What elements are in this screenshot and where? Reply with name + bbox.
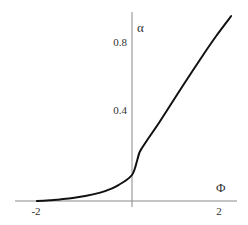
data-curve	[37, 16, 231, 201]
y-tick-label-0.8: 0.8	[113, 36, 127, 48]
y-tick-labels: 0.4 0.8	[113, 36, 127, 116]
y-axis-title: α	[137, 20, 144, 35]
x-tick-labels: -2 2	[31, 205, 221, 217]
x-axis-title: Φ	[216, 180, 226, 195]
y-tick-label-0.4: 0.4	[113, 104, 127, 116]
line-chart: -2 2 0.4 0.8 α Φ	[0, 0, 248, 225]
x-tick-label-neg2: -2	[31, 205, 40, 217]
x-tick-label-2: 2	[216, 205, 222, 217]
